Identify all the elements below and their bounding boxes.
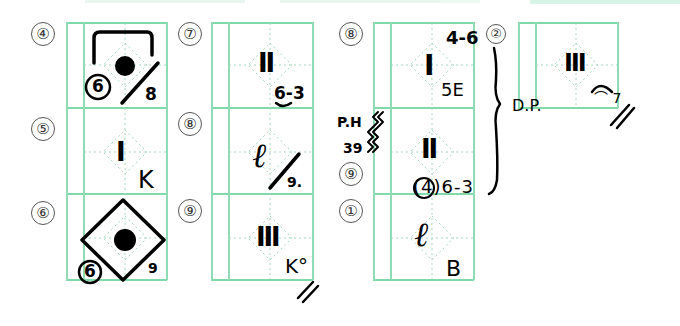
brace-label: D.P. xyxy=(512,96,542,115)
chord-symbol: I xyxy=(116,137,126,167)
ink-marks xyxy=(79,32,634,302)
chord-symbol: I xyxy=(424,49,434,82)
chord-symbol: Ⅱ xyxy=(258,48,275,78)
filled-dot-icon xyxy=(115,56,135,76)
side-note: P.H xyxy=(337,114,362,130)
circled-fingering: 6 xyxy=(92,76,104,96)
suffix-text: 8 xyxy=(145,84,157,104)
row-label: ② xyxy=(486,24,506,44)
chord-symbol: Ⅱ xyxy=(421,134,438,164)
suffix-text: ⌒ 7 xyxy=(594,87,621,107)
circled-fingering: 6 xyxy=(84,261,96,281)
chord-symbol: ℓ xyxy=(414,214,428,254)
suffix-text: 5E xyxy=(441,79,464,100)
suffix-text: K xyxy=(138,166,154,194)
side-note: 39 xyxy=(343,140,362,156)
suffix-text: B xyxy=(446,256,461,281)
filled-dot-icon xyxy=(114,229,136,251)
suffix-text: 9 xyxy=(148,260,158,276)
suffix-text: 9. xyxy=(287,174,302,190)
chord-symbol: Ⅲ xyxy=(256,222,281,252)
chord-symbol: Ⅲ xyxy=(564,49,587,77)
suffix-text: (4)6-3 xyxy=(413,176,474,197)
top-suffix-text: 4-6 xyxy=(446,27,479,48)
suffix-text: K° xyxy=(285,254,308,278)
suffix-text: 6-3 xyxy=(274,83,305,103)
chord-symbol: ℓ xyxy=(252,135,266,175)
